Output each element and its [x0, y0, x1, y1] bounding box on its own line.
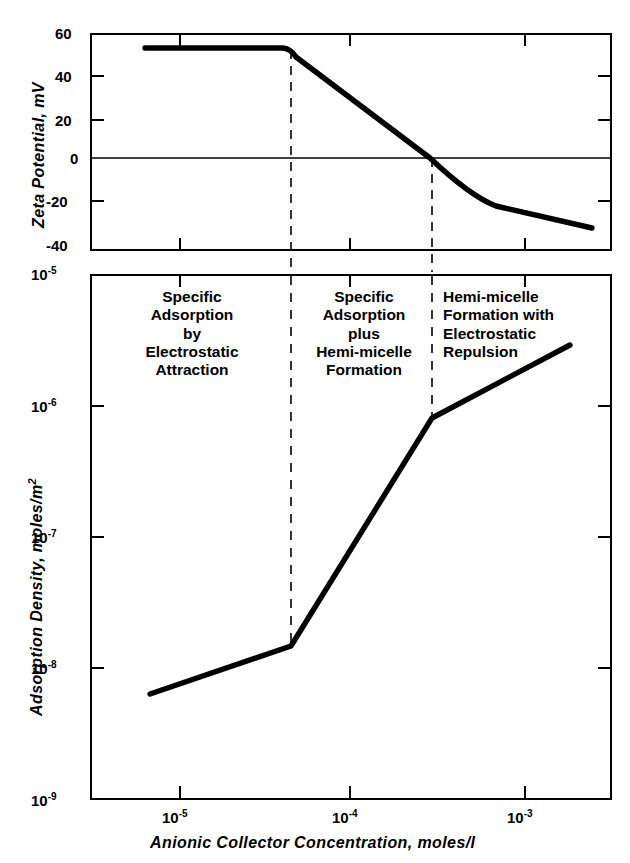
figure-root: 60 40 20 0 -20 -40 Zeta Potential, mV 10… — [0, 0, 630, 863]
adsorption-plot-canvas — [0, 0, 630, 863]
adsorption-density-curve — [150, 345, 570, 694]
